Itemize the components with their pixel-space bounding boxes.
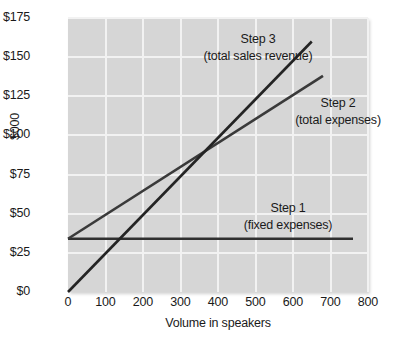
y-axis-tick-label: $50 bbox=[0, 206, 30, 220]
gridline-horizontal bbox=[68, 252, 368, 254]
annotation-step-1-title: Step 1 bbox=[271, 201, 306, 215]
y-axis-tick-label: $175 bbox=[0, 10, 30, 24]
y-axis-tick-label: $125 bbox=[0, 88, 30, 102]
gridline-horizontal bbox=[68, 174, 368, 176]
y-axis-tick-label: $25 bbox=[0, 245, 30, 259]
annotation-step-1-subtitle: (fixed expenses) bbox=[224, 217, 352, 234]
x-axis-tick-label: 800 bbox=[338, 295, 398, 309]
annotation-step-2-title: Step 2 bbox=[321, 96, 356, 110]
annotation-step-1: Step 1 (fixed expenses) bbox=[224, 200, 352, 234]
annotation-step-3-subtitle: (total sales revenue) bbox=[192, 48, 324, 65]
annotation-step-3-title: Step 3 bbox=[241, 32, 276, 46]
y-axis-tick-label: $0 bbox=[0, 284, 30, 298]
annotation-step-2-subtitle: (total expenses) bbox=[282, 112, 394, 129]
gridline-horizontal bbox=[68, 17, 368, 19]
gridline-horizontal bbox=[68, 134, 368, 136]
x-axis-title: Volume in speakers bbox=[68, 316, 368, 330]
annotation-step-2: Step 2 (total expenses) bbox=[282, 95, 394, 129]
y-axis-title: $000 bbox=[8, 113, 22, 140]
y-axis-tick-label: $75 bbox=[0, 167, 30, 181]
y-axis-tick-label: $150 bbox=[0, 49, 30, 63]
annotation-step-3: Step 3 (total sales revenue) bbox=[192, 31, 324, 65]
break-even-chart: $0$25$50$75$100$125$150$175 010020030040… bbox=[0, 0, 402, 345]
